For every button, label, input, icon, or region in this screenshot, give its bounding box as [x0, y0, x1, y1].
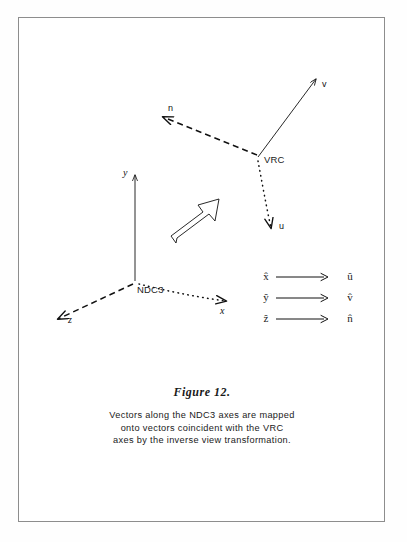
axis-mapping-table: x̂ û ŷ v̂ ẑ — [258, 266, 358, 329]
caption-line: axes by the inverse view transformation. — [34, 434, 370, 447]
vrc-axis-n-label: n — [168, 104, 173, 113]
figure-page: v n u VRC y z x NDC3 x̂ û ŷ — [0, 0, 407, 542]
ndc3-axis-x-label: x — [220, 306, 224, 316]
figure-caption: Figure 12. Vectors along the NDC3 axes a… — [34, 385, 370, 447]
vrc-axis-v — [258, 79, 316, 157]
mapping-source-symbol: ẑ — [258, 313, 274, 324]
ndc3-origin-label: NDC3 — [137, 284, 164, 295]
mapping-arrow-icon — [274, 272, 342, 282]
mapping-row: ŷ v̂ — [258, 287, 358, 308]
vrc-axis-v-label: v — [322, 80, 327, 89]
caption-text: Vectors along the NDC3 axes are mapped o… — [34, 409, 370, 447]
mapping-source-symbol: ŷ — [258, 292, 274, 303]
vrc-axis-u-label: u — [279, 222, 284, 231]
mapping-row: ẑ n̂ — [258, 308, 358, 329]
mapping-target-symbol: n̂ — [342, 313, 358, 324]
mapping-target-symbol: v̂ — [342, 292, 358, 303]
ndc3-axis-z-label: z — [68, 315, 72, 325]
mapping-target-symbol: û — [342, 271, 358, 282]
transform-block-arrow-icon — [171, 199, 219, 243]
ndc3-axis-y-label: y — [123, 168, 127, 178]
mapping-source-symbol: x̂ — [258, 271, 274, 282]
mapping-arrow-icon — [274, 314, 342, 324]
caption-line: Vectors along the NDC3 axes are mapped — [34, 409, 370, 422]
vrc-axis-n — [163, 117, 257, 155]
figure-title: Figure 12. — [34, 385, 370, 400]
vrc-axis-u — [258, 161, 271, 228]
mapping-arrow-icon — [274, 293, 342, 303]
caption-line: onto vectors coincident with the VRC — [34, 422, 370, 435]
mapping-row: x̂ û — [258, 266, 358, 287]
vrc-origin-label: VRC — [264, 154, 285, 165]
